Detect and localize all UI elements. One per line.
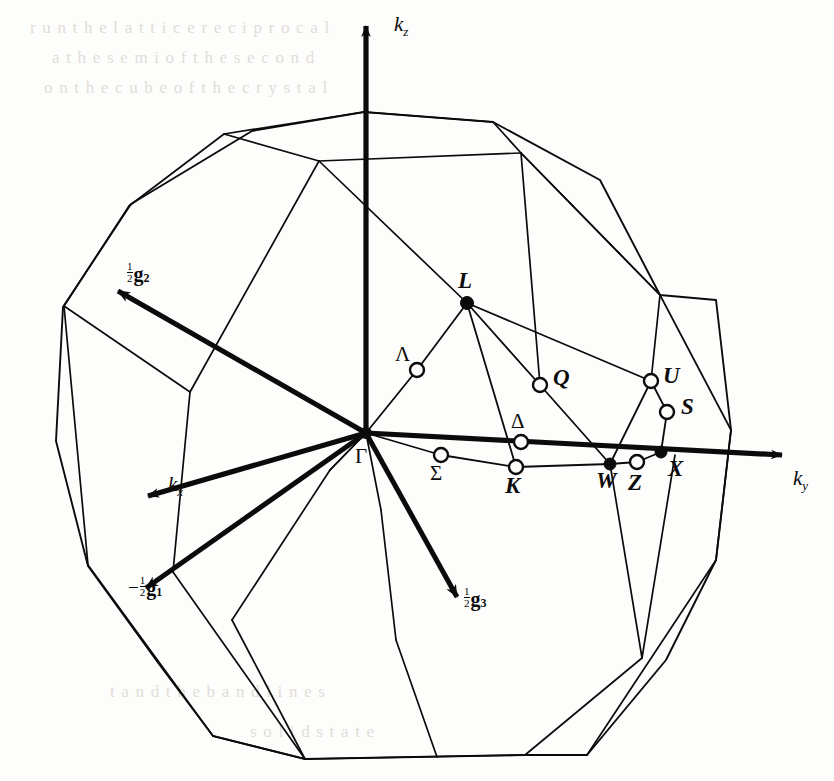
- zone-edge-left-lower-edge: [64, 306, 88, 565]
- axis-subscript-ky: y: [802, 478, 808, 493]
- symmetry-line-U-W: [610, 381, 651, 464]
- axis-letter-ky: k: [793, 466, 802, 490]
- vector-sign-neg-half-g1: −: [128, 578, 139, 597]
- symmetry-point-label-L: L: [458, 268, 472, 294]
- vector-subscript-neg-half-g1: 1: [156, 586, 162, 598]
- zone-edge-top-face-right: [493, 122, 521, 153]
- symmetry-point-label-lambda: Λ: [395, 342, 410, 367]
- zone-edge-face-seam-left-down: [173, 572, 305, 759]
- symmetry-point-label-gamma: Γ: [355, 444, 367, 469]
- k-axes: [148, 26, 782, 496]
- axis-letter-kz: k: [394, 12, 403, 36]
- zone-edge-top-face-front: [319, 153, 521, 161]
- symmetry-point-label-S: S: [681, 394, 694, 420]
- brillouin-zone-figure: r u n t h e l a t t i c e r e c i p r o …: [0, 0, 834, 781]
- vector-fraction-numerator-neg-half-g1: 1: [140, 575, 146, 586]
- brillouin-zone-svg: [0, 0, 834, 781]
- zone-edge-face-seam-front-b: [396, 640, 437, 757]
- axis-label-kx: kx: [168, 472, 183, 500]
- vector-half-g2: [118, 291, 366, 433]
- point-marker-delta: [514, 435, 528, 449]
- vector-symbol-half-g3: g: [471, 589, 481, 609]
- axis-label-ky: ky: [793, 466, 808, 494]
- zone-edge-top-face-front-left: [224, 134, 319, 161]
- point-marker-K: [509, 460, 523, 474]
- vector-fraction-denominator-neg-half-g1: 2: [140, 586, 146, 598]
- zone-edge-face-seam-u-up: [651, 295, 660, 381]
- point-marker-S: [660, 405, 674, 419]
- point-marker-X: [655, 446, 667, 458]
- point-marker-gamma: [361, 428, 372, 439]
- vector-fraction-neg-half-g1: 12: [140, 575, 146, 598]
- axis-subscript-kz: z: [403, 24, 408, 39]
- point-marker-U: [644, 374, 658, 388]
- vector-label-half-g2: 12g2: [127, 262, 150, 285]
- zone-edge-face-seam-l-up: [319, 161, 467, 303]
- zone-edge-face-seam-right-d: [525, 658, 642, 755]
- symmetry-point-label-delta: Δ: [511, 409, 525, 434]
- axis-label-kz: kz: [394, 12, 408, 40]
- vector-fraction-denominator-half-g2: 2: [127, 272, 133, 284]
- symmetry-point-label-K: K: [505, 473, 520, 499]
- symmetry-point-label-X: X: [668, 456, 683, 482]
- axis-letter-kx: k: [168, 472, 177, 496]
- vector-label-neg-half-g1: −12g1: [128, 576, 162, 599]
- zone-edge-top-face-back-left: [224, 112, 364, 134]
- zone-edge-face-seam-mid-down: [232, 620, 305, 759]
- zone-edge-face-seam-q-upper: [521, 153, 540, 385]
- vector-fraction-half-g3: 12: [464, 586, 470, 609]
- zone-edge-top-face-back-right: [364, 112, 493, 122]
- axis-subscript-kx: x: [177, 484, 183, 499]
- vector-fraction-numerator-half-g2: 1: [127, 261, 133, 272]
- point-marker-L: [461, 297, 474, 310]
- symmetry-point-label-sigma: Σ: [430, 461, 442, 486]
- vector-symbol-half-g2: g: [134, 264, 144, 284]
- point-marker-Q: [533, 378, 547, 392]
- symmetry-line-K-W: [516, 464, 610, 467]
- zone-edge-right-bottom-edge: [587, 560, 716, 755]
- vector-fraction-denominator-half-g3: 2: [464, 597, 470, 609]
- zone-edge-face-seam-front-d: [381, 510, 396, 640]
- zone-edge-face-seam-front-l: [190, 161, 319, 392]
- zone-edge-bottom-mid: [305, 755, 525, 759]
- symmetry-point-label-W: W: [596, 468, 616, 494]
- vector-label-half-g3: 12g3: [464, 587, 487, 610]
- vector-symbol-neg-half-g1: g: [146, 578, 156, 598]
- zone-edge-face-seam-x-down: [642, 455, 675, 658]
- vector-subscript-half-g2: 2: [144, 272, 150, 284]
- point-marker-lambda: [410, 363, 424, 377]
- point-marker-sigma: [434, 448, 448, 462]
- vector-fraction-half-g2: 12: [127, 261, 133, 284]
- symmetry-point-label-U: U: [663, 363, 680, 389]
- point-marker-Z: [630, 455, 644, 469]
- zone-edge-left-upper-edge: [129, 134, 224, 206]
- vector-fraction-numerator-half-g3: 1: [464, 586, 470, 597]
- vector-subscript-half-g3: 3: [481, 597, 487, 609]
- symmetry-point-label-Z: Z: [628, 470, 642, 496]
- symmetry-point-label-Q: Q: [553, 365, 570, 391]
